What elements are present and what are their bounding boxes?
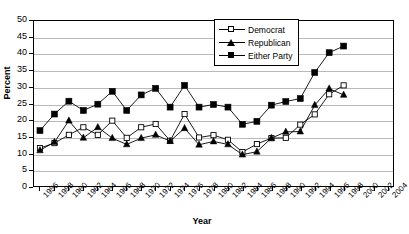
data-point	[327, 92, 332, 97]
legend-item-democrat: Democrat	[219, 23, 292, 36]
y-tick-label: 5	[0, 165, 27, 174]
x-tick-mark	[155, 187, 156, 191]
x-axis-ticks: 1956195819601962196419661968197019721974…	[0, 188, 404, 234]
data-point	[312, 112, 317, 117]
data-point	[109, 134, 116, 140]
data-point	[109, 88, 115, 94]
data-point	[182, 82, 188, 88]
x-tick-mark	[54, 187, 55, 191]
legend-label: Republican	[248, 38, 291, 48]
legend-item-republican: Republican	[219, 36, 292, 49]
x-tick-mark	[228, 187, 229, 191]
data-point	[341, 83, 346, 88]
data-point	[51, 111, 57, 117]
data-point	[153, 121, 158, 126]
data-point	[239, 121, 245, 127]
x-tick-mark	[388, 187, 389, 191]
y-tick-label: 10	[0, 149, 27, 158]
data-point	[139, 125, 144, 130]
data-point	[326, 85, 333, 91]
data-point	[312, 70, 318, 76]
y-tick-label: 15	[0, 132, 27, 141]
x-tick-mark	[374, 187, 375, 191]
legend-marker-icon	[219, 37, 245, 48]
data-point	[181, 124, 188, 130]
data-point	[268, 102, 274, 108]
x-tick-mark	[184, 187, 185, 191]
data-point	[210, 138, 217, 144]
series-either-party	[37, 43, 347, 133]
data-point	[182, 111, 187, 116]
x-tick-mark	[344, 187, 345, 191]
x-tick-mark	[141, 187, 142, 191]
data-point	[225, 104, 231, 110]
x-tick-mark	[126, 187, 127, 191]
x-tick-mark	[214, 187, 215, 191]
data-point	[66, 132, 71, 137]
data-point	[95, 132, 100, 137]
data-point	[138, 92, 144, 98]
data-point	[211, 102, 217, 108]
data-point	[153, 85, 159, 91]
y-axis-title: Percent	[2, 48, 12, 118]
x-tick-mark	[301, 187, 302, 191]
data-point	[283, 99, 289, 105]
data-point	[298, 122, 303, 127]
x-tick-mark	[286, 187, 287, 191]
x-tick-mark	[243, 187, 244, 191]
x-tick-mark	[330, 187, 331, 191]
x-tick-mark	[257, 187, 258, 191]
x-tick-mark	[68, 187, 69, 191]
y-tick-label: 45	[0, 32, 27, 41]
data-point	[254, 118, 260, 124]
data-point	[283, 128, 290, 134]
data-point	[211, 133, 216, 138]
data-point	[297, 96, 303, 102]
data-point	[254, 142, 259, 147]
legend-marker-icon	[219, 24, 245, 35]
data-point	[80, 107, 86, 113]
legend-label: Democrat	[248, 25, 285, 35]
chart-legend: DemocratRepublicanEither Party	[214, 19, 299, 66]
x-tick-mark	[170, 187, 171, 191]
data-point	[37, 128, 43, 134]
data-point	[95, 123, 102, 129]
x-tick-mark	[83, 187, 84, 191]
x-tick-mark	[199, 187, 200, 191]
data-point	[124, 107, 130, 113]
data-point	[167, 104, 173, 110]
x-tick-mark	[359, 187, 360, 191]
x-tick-mark	[112, 187, 113, 191]
data-point	[254, 148, 261, 154]
x-tick-mark	[315, 187, 316, 191]
y-tick-label: 50	[0, 15, 27, 24]
legend-item-either-party: Either Party	[219, 49, 292, 62]
data-point	[66, 117, 73, 123]
data-point	[283, 135, 288, 140]
data-point	[124, 135, 129, 140]
data-point	[341, 43, 347, 49]
legend-marker-icon	[219, 50, 245, 61]
x-tick-mark	[39, 187, 40, 191]
data-point	[81, 125, 86, 130]
data-point	[110, 118, 115, 123]
data-point	[326, 50, 332, 56]
data-point	[196, 104, 202, 110]
series-democrat	[37, 83, 346, 155]
x-tick-mark	[272, 187, 273, 191]
x-tick-mark	[97, 187, 98, 191]
x-axis-title: Year	[0, 216, 404, 226]
data-point	[66, 98, 72, 104]
data-point	[95, 101, 101, 107]
data-point	[196, 135, 201, 140]
legend-label: Either Party	[248, 51, 292, 61]
data-point	[152, 131, 159, 137]
data-point	[297, 128, 304, 134]
